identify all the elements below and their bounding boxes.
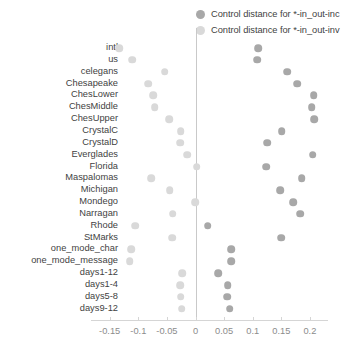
x-axis-tick: [310, 317, 311, 320]
x-axis-tick-label: 0: [193, 326, 198, 336]
data-point[interactable]: [204, 222, 212, 230]
zero-reference-line: [196, 28, 197, 320]
x-axis-tick: [281, 317, 282, 320]
data-point[interactable]: [278, 127, 286, 135]
data-point[interactable]: [168, 234, 176, 242]
data-point[interactable]: [191, 198, 199, 206]
x-axis-tick: [167, 317, 168, 320]
data-point[interactable]: [226, 305, 234, 313]
data-point[interactable]: [176, 281, 184, 289]
data-point[interactable]: [165, 115, 173, 123]
data-point[interactable]: [223, 293, 231, 301]
x-axis-tick: [253, 317, 254, 320]
data-point[interactable]: [193, 163, 201, 171]
data-point[interactable]: [149, 92, 157, 100]
data-point[interactable]: [177, 293, 185, 301]
data-point[interactable]: [310, 92, 318, 100]
data-point[interactable]: [309, 151, 317, 159]
data-point[interactable]: [290, 198, 298, 206]
data-point[interactable]: [166, 186, 174, 194]
data-point[interactable]: [116, 44, 124, 52]
x-axis-tick-label: 0.1: [246, 326, 259, 336]
x-axis-tick: [110, 317, 111, 320]
data-point[interactable]: [178, 305, 186, 313]
x-axis-tick-label: -0.15: [99, 326, 120, 336]
data-point[interactable]: [311, 115, 319, 123]
data-point[interactable]: [215, 269, 223, 277]
x-axis-tick-label: 0.2: [303, 326, 316, 336]
data-point[interactable]: [227, 258, 235, 266]
x-axis-tick: [224, 317, 225, 320]
data-point[interactable]: [177, 127, 185, 135]
data-point[interactable]: [263, 163, 271, 171]
x-axis-tick-label: -0.05: [156, 326, 177, 336]
data-point[interactable]: [253, 56, 261, 64]
scatter-chart: Control distance for *-in_out-inc Contro…: [0, 0, 362, 354]
data-point[interactable]: [151, 103, 159, 111]
data-point[interactable]: [132, 222, 140, 230]
data-point[interactable]: [294, 80, 302, 88]
data-point[interactable]: [278, 234, 286, 242]
x-axis-tick: [138, 317, 139, 320]
data-point[interactable]: [227, 246, 235, 254]
data-point[interactable]: [276, 186, 284, 194]
data-point[interactable]: [263, 139, 271, 147]
data-point[interactable]: [255, 44, 263, 52]
data-point[interactable]: [169, 210, 177, 218]
data-point[interactable]: [176, 139, 184, 147]
data-point[interactable]: [183, 151, 191, 159]
data-point[interactable]: [296, 210, 304, 218]
data-point[interactable]: [224, 281, 232, 289]
x-axis-tick-label: -0.1: [130, 326, 146, 336]
data-point[interactable]: [308, 103, 316, 111]
x-axis-tick-label: 0.15: [272, 326, 290, 336]
x-axis-tick-label: 0.05: [215, 326, 233, 336]
data-point[interactable]: [144, 80, 152, 88]
x-axis-line: [91, 320, 328, 321]
data-point[interactable]: [179, 269, 187, 277]
data-point[interactable]: [161, 68, 169, 76]
data-point[interactable]: [283, 68, 291, 76]
data-point[interactable]: [126, 258, 134, 266]
data-point[interactable]: [148, 175, 156, 183]
data-point[interactable]: [128, 246, 136, 254]
data-point[interactable]: [298, 175, 306, 183]
plot-area: -0.15-0.1-0.0500.050.10.150.2: [0, 0, 362, 354]
x-axis-tick: [196, 317, 197, 320]
data-point[interactable]: [128, 56, 136, 64]
